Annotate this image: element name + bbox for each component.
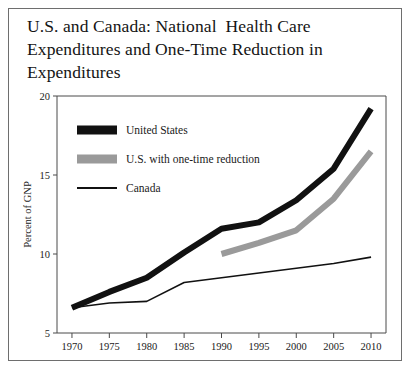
x-tick-label: 1995 bbox=[248, 341, 269, 352]
x-tick-label: 1990 bbox=[211, 341, 232, 352]
legend-swatch bbox=[77, 126, 117, 135]
line-chart: 5101520197019751980198519901995200020052… bbox=[9, 9, 403, 362]
x-tick-label: 1985 bbox=[174, 341, 195, 352]
legend-swatch bbox=[77, 155, 117, 164]
y-axis-title: Percent of GNP bbox=[22, 181, 33, 248]
x-tick-label: 1980 bbox=[136, 341, 157, 352]
series-3 bbox=[72, 257, 371, 308]
legend-label: Canada bbox=[126, 182, 160, 194]
x-tick-label: 1970 bbox=[61, 341, 82, 352]
figure-frame: U.S. and Canada: National Health Care Ex… bbox=[8, 8, 402, 361]
x-tick-label: 2005 bbox=[323, 341, 344, 352]
y-tick-label: 15 bbox=[40, 170, 51, 181]
legend-label: United States bbox=[126, 124, 188, 136]
x-tick-label: 2010 bbox=[361, 341, 382, 352]
legend-label: U.S. with one-time reduction bbox=[126, 153, 260, 165]
y-tick-label: 20 bbox=[40, 91, 51, 102]
x-tick-label: 1975 bbox=[99, 341, 120, 352]
plot-area: 5101520197019751980198519901995200020052… bbox=[9, 9, 403, 362]
y-tick-label: 5 bbox=[45, 328, 50, 339]
x-tick-label: 2000 bbox=[286, 341, 307, 352]
y-tick-label: 10 bbox=[40, 249, 51, 260]
